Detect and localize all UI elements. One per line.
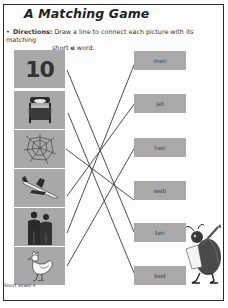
word-box-men[interactable]: men — [134, 51, 186, 70]
line-web — [66, 149, 134, 200]
line-men — [67, 60, 136, 233]
picture-men[interactable] — [14, 208, 65, 246]
picture-jet[interactable] — [14, 169, 65, 207]
picture-hen[interactable] — [14, 247, 65, 285]
picture-number-ten[interactable]: 10 — [14, 50, 65, 88]
line-jet — [67, 103, 135, 196]
jet-icon — [18, 174, 62, 202]
word-box-ten[interactable]: ten — [134, 223, 186, 242]
bed-icon — [25, 94, 55, 126]
word-box-hen[interactable]: hen — [134, 138, 186, 157]
word-box-jet[interactable]: jet — [134, 94, 186, 113]
number-ten-label: 10 — [25, 57, 54, 82]
spider-web-icon — [22, 132, 58, 166]
hen-icon — [23, 249, 57, 283]
picture-bed[interactable] — [14, 91, 65, 129]
bug-mascot-icon — [184, 223, 224, 287]
word-box-bed[interactable]: bed — [134, 266, 186, 285]
word-box-web[interactable]: web — [134, 181, 186, 200]
men-icon — [23, 209, 57, 245]
footer-label: Short Vowel e — [4, 283, 36, 288]
picture-spider-web[interactable] — [14, 130, 65, 168]
